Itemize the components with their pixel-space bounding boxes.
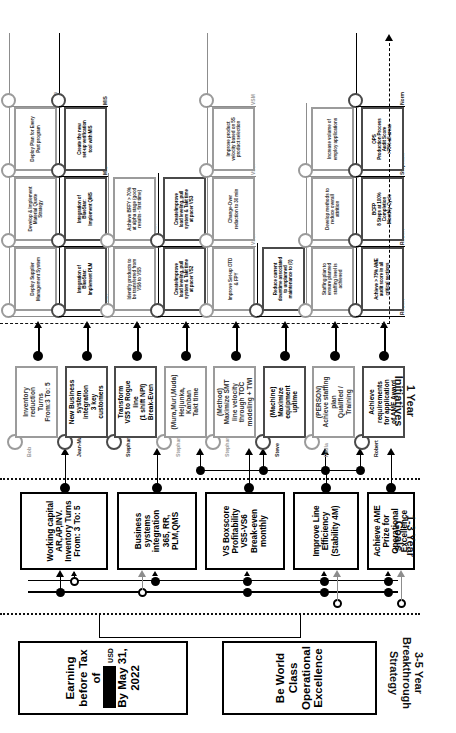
initiative-box-2[interactable]: New Business system integration 3 key cu…	[65, 366, 108, 438]
initiative-out-line-5	[236, 325, 238, 353]
initiative-out-line-3	[137, 325, 139, 353]
action-stub-r1-c3	[9, 176, 58, 177]
figure-page: Earning before Tax of USD By May 31, 202…	[0, 0, 456, 733]
action-flow-bottom-line	[389, 38, 390, 278]
action-box-r3-c1[interactable]: Identify products to be transferred from…	[113, 247, 156, 311]
initiative-out-line-6	[285, 325, 287, 353]
trunk-line-primary	[28, 591, 398, 593]
action-owner-r2-c4: MIS	[102, 96, 108, 105]
action-box-r7-c2[interactable]: Develop methods to reduce overall attrit…	[311, 177, 354, 241]
action-stub-r2-c1	[59, 316, 108, 317]
action-box-r6-c1[interactable]: Reduce current downtime associated to un…	[262, 247, 305, 311]
junction-dot-g5	[384, 588, 393, 597]
feed-arrow-g5	[385, 571, 391, 576]
junction-open-dot-g1b	[70, 577, 79, 586]
action-box-r8-c3[interactable]: OPS Production Process Audit Score >75% …	[361, 107, 404, 171]
initiative-box-7[interactable]: (PERSON) Achieve staffing plan Qualified…	[312, 366, 355, 438]
action-box-r2-c2[interactable]: Integration of BlueStar: Implement QMS	[64, 177, 107, 241]
strategy-connector-2	[300, 614, 301, 638]
initiative-owner-8: Robert	[373, 440, 379, 457]
junction-dot-g3b	[243, 577, 252, 586]
deployment-plan-canvas: Earning before Tax of USD By May 31, 202…	[0, 0, 420, 733]
action-stub-r8-c2	[356, 246, 405, 247]
strategy-text-line1: Earning before Tax of	[64, 645, 103, 711]
column-separator-initiatives-actions	[0, 323, 345, 324]
action-box-r1-c1[interactable]: Deploy Supplier Management System	[14, 247, 57, 311]
goal-out-arrow-5	[387, 448, 395, 455]
action-stub-r1-c4	[9, 106, 58, 107]
initiative-box-3[interactable]: Transform VS5 to Rogue line (1 shift NPI…	[114, 366, 157, 438]
feed-arrow-g2	[138, 570, 146, 577]
strategy-box-earning-before-tax[interactable]: Earning before Tax of USD By May 31, 202…	[18, 641, 188, 715]
initiative-out-arrow-3	[133, 321, 141, 328]
action-stub-r5-c3	[207, 176, 256, 177]
goal-branch-dot-4a	[196, 466, 205, 475]
action-box-r5-c1[interactable]: Improve Set-up OTD & FPY	[212, 247, 255, 311]
goal-out-line-3	[249, 452, 250, 485]
action-box-r2-c1[interactable]: Integration of BlueStar: Implement PLM	[64, 247, 107, 311]
initiative-owner-7: Paula	[323, 443, 329, 457]
initiative-out-line-1	[38, 325, 40, 353]
initiative-out-arrow-1	[34, 321, 42, 328]
action-owner-r8-c4: Norm	[399, 92, 405, 105]
action-box-r2-c3[interactable]: Create the new set-up verification tool …	[64, 107, 107, 171]
action-stub-r3-c2	[108, 246, 157, 247]
action-stub-r4-c2	[158, 246, 207, 247]
strategy-connector-vertical	[99, 637, 300, 638]
goal-box-working-capital[interactable]: Working capital AR,AP,INV. Inventory Tur…	[20, 492, 108, 570]
action-box-r3-c2[interactable]: Achieve BFFY > 70% at alpha stage (good …	[113, 177, 156, 241]
initiative-owner-6: Steve	[274, 443, 280, 457]
action-stub-r4-c1	[158, 316, 207, 317]
goal-box-improve-line-efficiency[interactable]: Improve Line Efficiency (Stability 4M)	[293, 492, 359, 570]
action-box-r5-c2[interactable]: Change-Over reduction to 30 min	[212, 177, 255, 241]
goal-box-vs-boxscore[interactable]: VS Boxscore Profitability VS5-VS6 Break-…	[205, 492, 285, 570]
feed-arrow-g4c	[333, 570, 341, 577]
initiative-out-arrow-7	[331, 321, 339, 328]
initiative-box-4[interactable]: (Mura,Muri,Muda) Heijunka, Kanban Takt t…	[164, 366, 207, 438]
action-stub-r5-c4	[207, 106, 256, 107]
action-stub-r8-c3	[356, 176, 405, 177]
initiative-out-line-7	[335, 325, 337, 353]
goal-branch-dot-4d	[356, 466, 365, 475]
initiative-box-5[interactable]: (Method) Maximize SMT line velocity thro…	[213, 366, 256, 438]
band-label-initiatives: 1 Year Initiatives	[392, 356, 417, 446]
strategy-box-world-class-oe[interactable]: Be World Class Operational Excellence	[222, 641, 377, 715]
column-separator-goals-initiatives	[0, 478, 420, 480]
feed-arrow-g4	[321, 571, 327, 576]
action-box-r1-c3[interactable]: Deploy Plan for Every Part program	[14, 107, 57, 171]
strategy-currency: USD	[107, 648, 114, 663]
action-box-r8-c2[interactable]: BCFP 8 Steps at 100% Completion Monthly …	[361, 177, 404, 241]
initiative-out-line-8	[384, 325, 386, 353]
feed-arrow-g1b	[71, 571, 77, 576]
strategy-connector-1	[99, 614, 100, 638]
feed-arrow-g3	[244, 571, 250, 576]
initiative-out-arrow-2	[83, 321, 91, 328]
feed-arrow-g1	[56, 570, 64, 577]
band-label-goals: 1-3 Year Goals	[392, 491, 417, 581]
initiative-out-line-2	[87, 325, 89, 353]
goal-out-branch-4	[200, 470, 360, 471]
action-box-r1-c2[interactable]: Develop & Implement Material Quote Strat…	[14, 177, 57, 241]
strategy-redaction-bar: USD	[103, 648, 116, 708]
action-flow-bottom-arrow	[385, 34, 393, 41]
action-stub-r5-c2	[207, 246, 256, 247]
initiative-out-arrow-6	[281, 321, 289, 328]
column-separator-strategy-goals	[0, 613, 420, 615]
action-stub-r1-c1	[9, 316, 58, 317]
action-box-r4-c2[interactable]: Create/improve load leveling, pull syste…	[163, 177, 206, 241]
action-box-r5-c3[interactable]: Improve product velocity based on 5S pro…	[212, 107, 255, 171]
rotated-diagram-wrapper: Earning before Tax of USD By May 31, 202…	[0, 0, 420, 733]
feed-arrow-g2b	[152, 571, 158, 576]
action-row-spine-7	[306, 103, 307, 317]
goal-branch-dot-4c	[321, 466, 330, 475]
goal-out-line-1	[65, 452, 66, 485]
junction-dot-g4b	[320, 577, 329, 586]
initiative-box-1[interactable]: Inventory reduction Turns From:3 To: 5	[15, 366, 58, 438]
trunk-line-secondary	[28, 580, 398, 581]
band-label-strategy: 3-5 Year Breakthrough Strategy	[388, 623, 425, 723]
action-box-r7-c3[interactable]: Increase volume of employ applications	[311, 107, 354, 171]
goal-box-business-systems[interactable]: Business systems integration 365, RR, PL…	[117, 492, 197, 570]
initiative-box-6[interactable]: (Machine) Maximize equipment uptime	[263, 366, 306, 438]
initiative-out-arrow-5	[232, 321, 240, 328]
action-box-r4-c1[interactable]: Create/improve load leveling, pull syste…	[163, 247, 206, 311]
